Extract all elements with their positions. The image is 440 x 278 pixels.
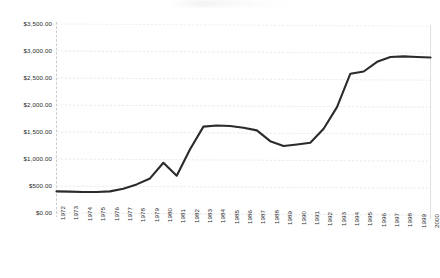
x-axis-tick-label: 1996 xyxy=(380,213,387,227)
x-axis-tick-label: 1976 xyxy=(113,207,120,221)
x-axis-tick-label: 1989 xyxy=(286,211,293,225)
x-axis-tick-label: 1997 xyxy=(393,213,400,227)
x-axis-tick-label: 1993 xyxy=(340,212,347,226)
x-axis-tick-label: 1982 xyxy=(193,209,200,223)
x-axis-tick-label: 1987 xyxy=(259,210,266,224)
x-axis-tick-label: 1978 xyxy=(139,208,146,222)
x-axis-tick-label: 1980 xyxy=(166,208,173,222)
x-axis-tick-label: 1985 xyxy=(233,209,240,223)
x-axis-tick-label: 1990 xyxy=(300,211,307,225)
x-axis-tick-label: 1986 xyxy=(246,210,253,224)
x-axis-tick-label: 2000 xyxy=(433,214,440,228)
x-axis-tick-label: 1999 xyxy=(420,213,427,227)
x-axis-tick-label: 1974 xyxy=(86,206,93,220)
x-axis-tick-label: 1998 xyxy=(406,213,413,227)
x-axis-tick-label: 1995 xyxy=(366,212,373,226)
x-axis-tick-label: 1994 xyxy=(353,212,360,226)
x-axis-tick-label: 1977 xyxy=(126,207,133,221)
x-axis-tick-label: 1988 xyxy=(273,210,280,224)
x-axis-tick-label: 1992 xyxy=(326,211,333,225)
x-axis-tick-label: 1984 xyxy=(219,209,226,223)
x-axis-tick-label: 1979 xyxy=(153,208,160,222)
x-axis-tick-label: 1983 xyxy=(206,209,213,223)
x-axis-tick-label: 1975 xyxy=(99,207,106,221)
x-axis-tick-label: 1973 xyxy=(72,206,79,220)
x-axis-tick-label: 1972 xyxy=(59,206,66,220)
x-axis-tick-label: 1981 xyxy=(179,208,186,222)
x-axis-tick-label: 1991 xyxy=(313,211,320,225)
